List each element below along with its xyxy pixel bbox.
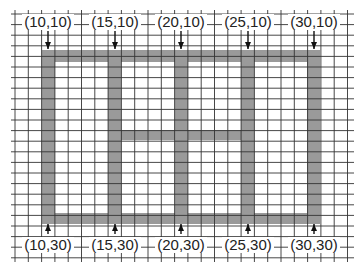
top-coordinate-label: (10,10) bbox=[24, 13, 72, 30]
column-beam-1 bbox=[42, 50, 55, 224]
top-coordinate-label: (15,10) bbox=[91, 13, 139, 30]
column-beam-5 bbox=[307, 50, 320, 224]
arrow-up-icon bbox=[311, 224, 317, 231]
bottom-coordinate-label: (20,30) bbox=[157, 236, 205, 253]
arrow-up-icon bbox=[245, 224, 251, 231]
bottom-coordinate-label: (25,30) bbox=[224, 236, 272, 253]
arrow-up-icon bbox=[112, 224, 118, 231]
arrow-up-icon bbox=[178, 224, 184, 231]
beam-layer bbox=[42, 50, 320, 224]
top-coordinate-label: (25,10) bbox=[224, 13, 272, 30]
bottom-coordinate-label: (15,30) bbox=[91, 236, 139, 253]
column-beam-4 bbox=[241, 50, 254, 224]
bottom-coordinate-label: (10,30) bbox=[24, 236, 72, 253]
top-coordinate-label: (20,10) bbox=[157, 13, 205, 30]
grid-diagram: (10,10)(15,10)(20,10)(25,10)(30,10)(10,3… bbox=[0, 0, 361, 269]
bottom-coordinate-label: (30,30) bbox=[290, 236, 338, 253]
arrow-up-icon bbox=[45, 224, 51, 231]
column-beam-3 bbox=[175, 50, 188, 224]
column-beam-2 bbox=[108, 50, 121, 224]
top-coordinate-label: (30,10) bbox=[290, 13, 338, 30]
